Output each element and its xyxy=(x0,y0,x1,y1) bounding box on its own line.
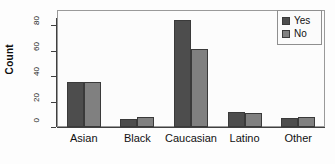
x-label-asian: Asian xyxy=(70,132,98,144)
y-axis-title: Count xyxy=(4,44,15,74)
legend-item-yes: Yes xyxy=(282,14,317,27)
bar-asian-yes xyxy=(67,82,84,127)
legend-label-no: No xyxy=(294,29,307,39)
y-tick-80 xyxy=(51,25,56,26)
chart-legend: Yes No xyxy=(277,10,322,45)
bar-other-yes xyxy=(281,118,298,127)
y-tick-label-20: 20 xyxy=(33,93,47,102)
y-tick-20 xyxy=(51,102,56,103)
legend-swatch-yes-icon xyxy=(282,17,290,25)
bar-black-no xyxy=(137,117,154,127)
x-label-latino: Latino xyxy=(230,132,260,144)
y-tick-40 xyxy=(51,76,56,77)
y-tick-0 xyxy=(51,127,56,128)
y-tick-label-0: 0 xyxy=(33,118,47,122)
legend-item-no: No xyxy=(282,27,317,40)
bar-asian-no xyxy=(84,82,101,127)
legend-swatch-no-icon xyxy=(282,30,290,38)
x-label-black: Black xyxy=(124,132,151,144)
bar-other-no xyxy=(298,117,315,127)
legend-label-yes: Yes xyxy=(294,16,310,26)
y-axis-line xyxy=(56,18,57,127)
x-label-caucasian: Caucasian xyxy=(165,132,217,144)
bar-latino-no xyxy=(245,113,262,127)
y-tick-label-80: 80 xyxy=(33,16,47,25)
bar-black-yes xyxy=(120,119,137,127)
y-tick-label-40: 40 xyxy=(33,67,47,76)
bar-chart-figure: 020406080 Count AsianBlackCaucasianLatin… xyxy=(0,0,335,164)
y-tick-label-60: 60 xyxy=(33,42,47,51)
x-label-other: Other xyxy=(284,132,312,144)
y-tick-60 xyxy=(51,51,56,52)
bar-caucasian-no xyxy=(191,49,208,127)
bar-latino-yes xyxy=(228,112,245,127)
x-axis-line xyxy=(57,127,325,128)
bar-caucasian-yes xyxy=(174,20,191,127)
